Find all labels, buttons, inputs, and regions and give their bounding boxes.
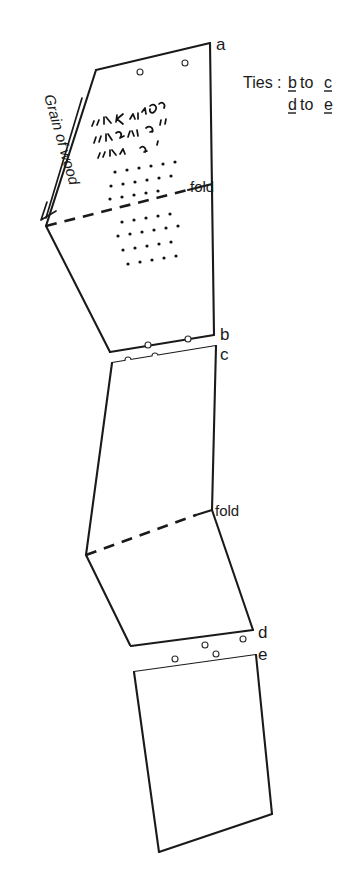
corner-label-b: b [220, 325, 229, 344]
tie-hole [213, 651, 219, 657]
panel-bottom [134, 655, 272, 852]
panel-top-face [46, 43, 214, 352]
ties-line2-to: e [324, 96, 333, 113]
panel-middle-edge-bottom [131, 630, 253, 646]
tie-hole [182, 60, 188, 66]
folded-tablet-diagram: Grain of wood a b c d e fold fold Ties :… [0, 0, 357, 895]
tie-hole [137, 69, 143, 75]
ties-annotation: Ties : b to c d to e [243, 74, 333, 113]
ties-line1-to: c [324, 74, 332, 91]
ties-prefix: Ties : [243, 74, 282, 91]
corner-label-d: d [258, 623, 267, 642]
ties-line1-from: b [288, 74, 297, 91]
ties-line2-mid: to [300, 96, 313, 113]
corner-label-e: e [258, 645, 267, 664]
panel-middle [86, 346, 253, 645]
corner-label-c: c [220, 345, 229, 364]
tie-hole [202, 642, 208, 648]
diagram-canvas: Grain of wood a b c d e fold fold Ties :… [0, 0, 357, 895]
fold-label-lower: fold [215, 502, 239, 519]
ties-line2-from: d [288, 96, 297, 113]
panel-middle-face [86, 346, 253, 630]
tie-hole [185, 336, 191, 342]
tie-hole [172, 656, 178, 662]
fold-label-upper: fold [190, 178, 214, 195]
panel-top [46, 43, 214, 352]
script-glyph [157, 141, 158, 145]
corner-label-a: a [216, 35, 226, 54]
ties-line1-mid: to [300, 74, 313, 91]
tie-hole [145, 342, 151, 348]
tie-hole [240, 636, 246, 642]
